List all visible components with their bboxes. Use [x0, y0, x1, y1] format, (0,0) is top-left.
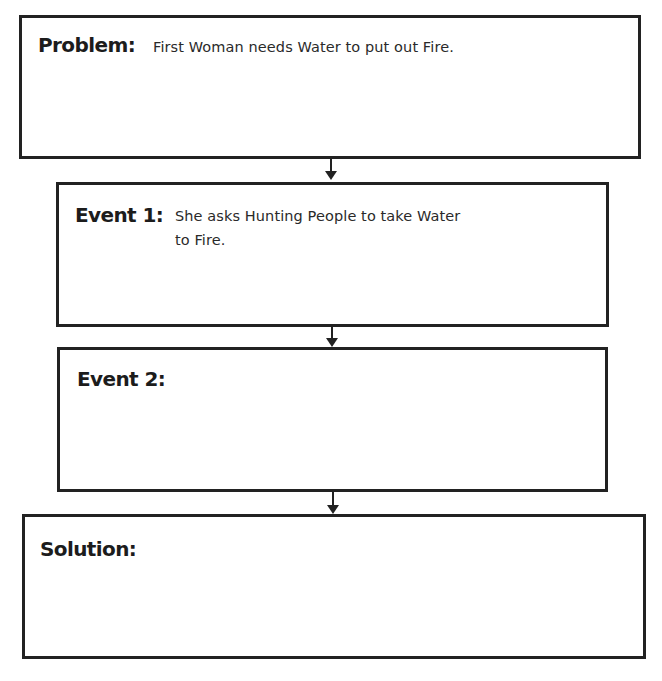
- problem-label: Problem:: [38, 33, 135, 57]
- event-1-answer-line: She asks Hunting People to take Water: [175, 204, 460, 228]
- connector-line: [331, 327, 333, 338]
- arrow-down-icon: [326, 338, 338, 347]
- event-2-label: Event 2:: [77, 367, 165, 391]
- connector-line: [330, 159, 332, 171]
- arrow-down-icon: [325, 171, 337, 180]
- arrow-down-icon: [327, 505, 339, 514]
- event-1-answer[interactable]: She asks Hunting People to take Water to…: [175, 204, 460, 252]
- event-1-answer-line: to Fire.: [175, 228, 460, 252]
- connector-line: [332, 492, 334, 505]
- event-1-label: Event 1:: [75, 203, 163, 227]
- problem-answer[interactable]: First Woman needs Water to put out Fire.: [153, 35, 454, 59]
- solution-box[interactable]: [22, 514, 646, 659]
- problem-answer-line: First Woman needs Water to put out Fire.: [153, 35, 454, 59]
- solution-label: Solution:: [40, 537, 136, 561]
